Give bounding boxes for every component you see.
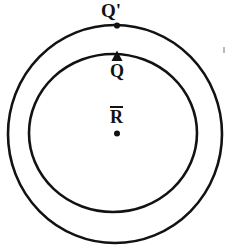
figure-container: Q' Q R	[0, 0, 237, 250]
q-prime-label: Q'	[101, 1, 121, 20]
q-prime-point-marker	[114, 22, 120, 28]
r-label-text: R	[110, 108, 123, 126]
q-label: Q	[110, 62, 124, 80]
r-vector-label: R	[110, 108, 123, 126]
center-point-marker	[114, 131, 120, 137]
scan-artifact-speck	[223, 47, 224, 53]
q-point-triangle-marker	[112, 51, 123, 62]
